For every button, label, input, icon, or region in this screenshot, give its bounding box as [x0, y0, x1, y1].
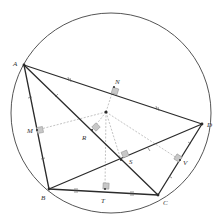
side-AD — [24, 65, 202, 124]
circumcircle — [11, 13, 211, 213]
label-B: B — [41, 194, 46, 202]
label-R: R — [81, 134, 87, 142]
point-R — [91, 129, 93, 131]
label-S: S — [129, 158, 133, 166]
label-M: M — [26, 127, 34, 135]
point-C — [157, 194, 160, 197]
label-N: N — [114, 78, 120, 86]
point-T — [104, 188, 106, 190]
right-angle-V — [174, 154, 182, 162]
point-D — [201, 123, 204, 126]
perp-to-S — [106, 112, 121, 160]
point-V — [179, 159, 181, 161]
tick-SD — [148, 148, 150, 151]
points — [23, 64, 204, 197]
point-B — [48, 188, 51, 191]
perp-to-T — [105, 112, 106, 189]
right-angle-R — [92, 123, 100, 131]
point-A — [23, 64, 26, 67]
label-D: D — [206, 121, 212, 129]
side-BC — [49, 189, 158, 195]
label-T: T — [101, 197, 106, 205]
point-S — [120, 159, 122, 161]
geometry-diagram: A B C D N M R S T V — [0, 0, 223, 220]
point-M — [36, 129, 38, 131]
label-A: A — [12, 60, 18, 68]
label-V: V — [183, 159, 188, 167]
right-angle-markers — [36, 87, 182, 189]
tick-marks — [28, 77, 191, 196]
point-N — [113, 86, 115, 88]
center-point — [104, 110, 107, 113]
right-angle-T — [103, 183, 109, 189]
quadrilateral — [24, 65, 202, 195]
right-angle-S — [121, 150, 129, 158]
perpendicular-lines — [37, 87, 180, 189]
perp-to-V — [106, 112, 180, 160]
label-C: C — [163, 199, 168, 207]
